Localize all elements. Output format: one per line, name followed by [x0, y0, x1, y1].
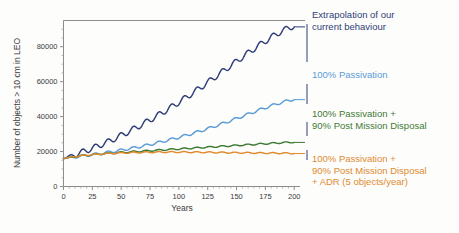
y-tick-label: 60000	[37, 77, 58, 86]
y-tick-label: 0	[53, 182, 57, 191]
annotation-passivation-pmd-adr-line-1: 90% Post Mission Disposal	[312, 165, 427, 176]
annotation-passivation-pmd-adr-line-2: + ADR (5 objects/year)	[312, 176, 408, 187]
annotation-extrapolation: Extrapolation of ourcurrent behaviour	[312, 9, 394, 32]
x-tick-label: 0	[61, 192, 65, 201]
annotation-passivation-pmd-adr-line-0: 100% Passivation +	[312, 153, 396, 164]
annotation-passivation-pmd-adr: 100% Passivation +90% Post Mission Dispo…	[312, 153, 427, 187]
chart-figure: 020000400006000080000 025507510012515017…	[0, 0, 459, 233]
x-tick-label: 175	[259, 192, 272, 201]
annotation-passivation-pmd-line-1: 90% Post Mission Disposal	[312, 120, 427, 131]
annotation-extrapolation-line-1: current behaviour	[312, 21, 386, 32]
series-group	[64, 26, 295, 158]
x-tick-label: 75	[146, 192, 154, 201]
annotation-extrapolation-line-0: Extrapolation of our	[312, 9, 394, 20]
plot-frame	[64, 21, 306, 187]
x-tick-label: 50	[117, 192, 125, 201]
leader-lines	[294, 24, 307, 160]
y-axis-ticks: 020000400006000080000	[37, 29, 64, 191]
y-tick-label: 80000	[37, 42, 58, 51]
x-tick-label: 150	[230, 192, 243, 201]
series-line-2	[64, 142, 295, 159]
annotation-passivation: 100% Passivation	[312, 69, 388, 80]
x-axis-title: Years	[171, 203, 192, 213]
annotation-passivation-line-0: 100% Passivation	[312, 69, 388, 80]
x-tick-label: 200	[288, 192, 301, 201]
x-tick-label: 25	[88, 192, 96, 201]
x-tick-label: 125	[201, 192, 214, 201]
y-tick-label: 40000	[37, 112, 58, 121]
x-tick-label: 100	[173, 192, 186, 201]
y-tick-label: 20000	[37, 147, 58, 156]
series-line-3	[64, 152, 295, 159]
x-axis-ticks: 0255075100125150175200	[61, 187, 300, 202]
y-axis-title: Number of objects > 10 cm in LEO	[12, 38, 22, 169]
annotation-group: Extrapolation of ourcurrent behaviour100…	[312, 9, 427, 187]
annotation-passivation-pmd: 100% Passivation +90% Post Mission Dispo…	[312, 108, 427, 131]
line-chart: 020000400006000080000 025507510012515017…	[0, 0, 459, 233]
annotation-passivation-pmd-line-0: 100% Passivation +	[312, 108, 396, 119]
